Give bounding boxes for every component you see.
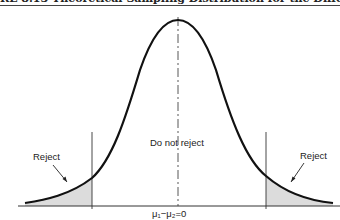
- x-axis-label: μ₁−μ₂=0: [152, 208, 186, 219]
- reject-left-label: Reject: [33, 151, 60, 162]
- reject-right-label: Reject: [300, 150, 327, 161]
- right-arrowhead-icon: [291, 177, 296, 183]
- normal-curve-chart: [0, 0, 340, 220]
- bell-curve: [25, 20, 333, 203]
- do-not-reject-label: Do not reject: [150, 137, 204, 148]
